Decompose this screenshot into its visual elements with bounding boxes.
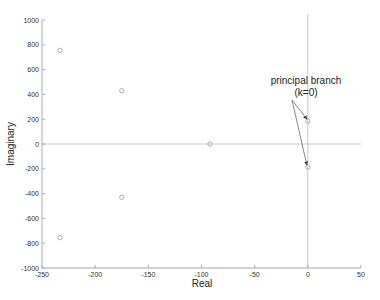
y-tick-label: 200 xyxy=(27,116,39,123)
x-tick-label: -250 xyxy=(35,271,49,278)
data-point-marker xyxy=(120,195,124,199)
x-axis-label: Real xyxy=(192,278,213,289)
x-tick-label: 0 xyxy=(306,271,310,278)
annotation-arrows xyxy=(292,100,307,165)
chart-canvas: -250-200-150-100-50050 -1000-800-600-400… xyxy=(0,0,380,300)
y-tick-label: -600 xyxy=(25,215,39,222)
x-tick-label: -50 xyxy=(250,271,260,278)
annotation-line2: (k=0) xyxy=(294,87,317,98)
x-tick-label: -200 xyxy=(88,271,102,278)
y-tick-label: 800 xyxy=(27,41,39,48)
x-tick-label: 50 xyxy=(357,271,365,278)
y-tick-label: -800 xyxy=(25,240,39,247)
x-tick-label: -100 xyxy=(194,271,208,278)
x-axis-ticks: -250-200-150-100-50050 xyxy=(35,265,365,278)
x-tick-label: -150 xyxy=(141,271,155,278)
y-tick-label: 0 xyxy=(35,141,39,148)
y-tick-label: -400 xyxy=(25,190,39,197)
data-point-marker xyxy=(58,235,62,239)
y-tick-label: -200 xyxy=(25,165,39,172)
data-point-marker xyxy=(120,88,124,92)
y-tick-label: -1000 xyxy=(21,265,39,272)
y-axis-ticks: -1000-800-600-400-20002004006008001000 xyxy=(21,17,45,272)
y-tick-label: 400 xyxy=(27,91,39,98)
y-tick-label: 1000 xyxy=(23,17,39,24)
reference-lines xyxy=(42,14,361,268)
y-tick-label: 600 xyxy=(27,66,39,73)
annotation-line1: principal branch xyxy=(271,75,342,86)
y-axis-label: Imaginary xyxy=(5,122,16,166)
data-point-marker xyxy=(58,48,62,52)
